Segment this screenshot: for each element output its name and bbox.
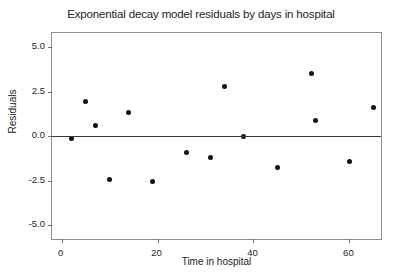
- y-tick-mark: [48, 92, 52, 93]
- x-tick-mark: [253, 239, 254, 243]
- figure: Exponential decay model residuals by day…: [0, 0, 402, 278]
- y-tick-label: -5.0: [4, 218, 45, 229]
- y-axis-label: Residuals: [7, 67, 18, 157]
- data-point: [107, 177, 112, 182]
- x-axis-label: Time in hospital: [51, 256, 382, 267]
- data-point: [309, 71, 314, 76]
- data-point: [126, 110, 131, 115]
- x-tick-mark: [62, 239, 63, 243]
- data-point: [150, 179, 155, 184]
- zero-reference-line: [52, 136, 381, 137]
- y-tick-label: 5.0: [4, 40, 45, 51]
- y-tick-mark: [48, 47, 52, 48]
- data-point: [184, 150, 189, 155]
- x-tick-mark: [349, 239, 350, 243]
- data-point: [83, 99, 88, 104]
- y-tick-mark: [48, 181, 52, 182]
- chart-title: Exponential decay model residuals by day…: [0, 8, 402, 20]
- data-point: [347, 159, 352, 164]
- data-point: [222, 84, 227, 89]
- data-point: [208, 155, 213, 160]
- y-tick-mark: [48, 225, 52, 226]
- data-point: [93, 123, 98, 128]
- data-point: [275, 165, 280, 170]
- plot-area: [51, 32, 382, 240]
- y-tick-label: -2.5: [4, 174, 45, 185]
- data-point: [371, 105, 376, 110]
- x-tick-mark: [158, 239, 159, 243]
- y-tick-mark: [48, 136, 52, 137]
- data-point: [313, 118, 318, 123]
